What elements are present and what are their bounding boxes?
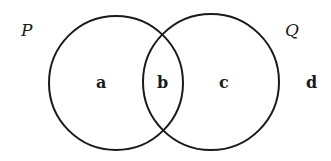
- region-only-q-label: c: [219, 73, 229, 92]
- set-p-label: P: [20, 20, 33, 40]
- region-only-p-label: a: [96, 73, 106, 92]
- set-q-label: Q: [285, 20, 299, 40]
- venn-diagram: P Q a b c d: [0, 0, 331, 161]
- region-intersection-label: b: [157, 73, 168, 92]
- region-outside-label: d: [306, 73, 317, 92]
